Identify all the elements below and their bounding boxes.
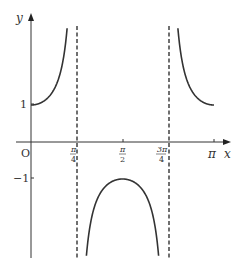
y-tick-label-minus-1: −1 xyxy=(13,172,29,185)
y-axis-arrow-icon xyxy=(28,13,34,21)
x-tick-label-3pi-over-4: 3π 4 xyxy=(156,145,168,164)
y-axis-label: y xyxy=(15,11,23,25)
svg-text:π: π xyxy=(70,145,77,154)
x-tick-label-pi-over-2: π 2 xyxy=(119,145,126,164)
curve-branch-3 xyxy=(178,28,214,105)
x-tick-label-pi: π xyxy=(207,147,217,161)
x-tick-label-pi-over-4: π 4 xyxy=(70,145,77,164)
curve-branch-2 xyxy=(86,179,158,256)
x-axis-label: x xyxy=(224,147,231,161)
origin-label: O xyxy=(21,147,30,160)
curve-branch-1 xyxy=(31,28,67,105)
svg-text:4: 4 xyxy=(159,155,164,164)
y-tick-label-1: 1 xyxy=(20,98,27,111)
svg-text:π: π xyxy=(119,145,126,154)
svg-text:2: 2 xyxy=(120,155,125,164)
svg-text:3π: 3π xyxy=(157,145,168,154)
sec-2x-graph: y x O 1 −1 π 4 π 2 3π 4 π xyxy=(0,0,243,270)
x-axis-arrow-icon xyxy=(223,139,231,145)
svg-text:4: 4 xyxy=(71,155,76,164)
